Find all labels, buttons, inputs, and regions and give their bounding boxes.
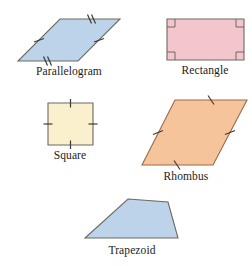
shape-group-parallelogram: Parallelogram bbox=[18, 15, 120, 79]
rectangle-shape bbox=[167, 19, 244, 60]
rectangle-label: Rectangle bbox=[182, 64, 229, 77]
shape-group-rectangle: Rectangle bbox=[167, 19, 244, 77]
shape-group-square: Square bbox=[44, 99, 98, 162]
parallelogram-shape bbox=[18, 19, 120, 61]
quadrilaterals-figure: Parallelogram Rectangle Square bbox=[0, 0, 252, 266]
square-label: Square bbox=[54, 149, 87, 162]
trapezoid-shape bbox=[85, 199, 178, 238]
shape-group-trapezoid: Trapezoid bbox=[85, 199, 178, 257]
parallelogram-label: Parallelogram bbox=[36, 65, 102, 78]
rhombus-label: Rhombus bbox=[164, 170, 209, 182]
trapezoid-label: Trapezoid bbox=[108, 244, 155, 257]
shape-group-rhombus: Rhombus bbox=[142, 96, 247, 183]
square-shape bbox=[48, 103, 93, 145]
figure-canvas: Parallelogram Rectangle Square bbox=[0, 0, 252, 266]
